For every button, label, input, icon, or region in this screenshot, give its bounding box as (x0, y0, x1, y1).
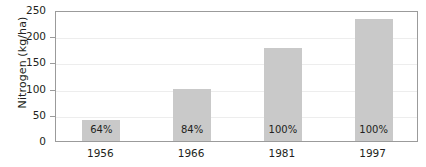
bar-value-label: 100% (264, 124, 302, 135)
y-tick-label: 50 (33, 109, 46, 121)
x-tick-label: 1997 (343, 147, 403, 159)
y-tick-label: 150 (26, 56, 46, 68)
bar-value-label: 100% (355, 124, 393, 135)
bar: 100% (355, 19, 393, 141)
x-tick-label: 1981 (252, 147, 312, 159)
bar: 64% (82, 120, 120, 141)
y-tick-label: 0 (39, 135, 46, 147)
y-tick-label: 250 (26, 4, 46, 16)
x-tick-label: 1956 (70, 147, 130, 159)
y-tick-label: 200 (26, 30, 46, 42)
plot-area: 64%84%100%100% (55, 11, 418, 142)
y-tick-label: 100 (26, 83, 46, 95)
bar: 84% (173, 89, 211, 141)
bar-value-label: 84% (173, 124, 211, 135)
x-tick-label: 1966 (161, 147, 221, 159)
bar: 100% (264, 48, 302, 141)
bar-chart: Nitrogen (kg/ha) 050100150200250 64%84%1… (0, 0, 426, 167)
bar-value-label: 64% (82, 124, 120, 135)
